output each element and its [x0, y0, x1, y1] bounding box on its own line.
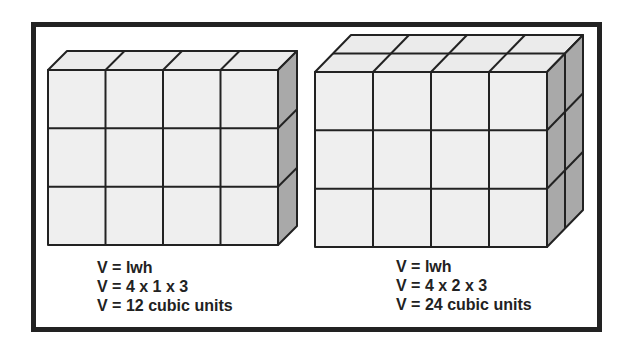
left-result-line: V = 12 cubic units [97, 296, 233, 315]
right-result-line: V = 24 cubic units [396, 295, 532, 314]
right-substitution-line: V = 4 x 2 x 3 [396, 276, 532, 295]
left-substitution-line: V = 4 x 1 x 3 [97, 277, 233, 296]
left-prism-caption: V = lwh V = 4 x 1 x 3 V = 12 cubic units [97, 258, 233, 315]
right-prism [315, 35, 583, 247]
left-prism [48, 51, 297, 245]
cube-prisms-figure [0, 0, 629, 350]
right-prism-caption: V = lwh V = 4 x 2 x 3 V = 24 cubic units [396, 257, 532, 314]
left-formula-line: V = lwh [97, 258, 233, 277]
left-prism-side-face [278, 51, 297, 245]
right-formula-line: V = lwh [396, 257, 532, 276]
